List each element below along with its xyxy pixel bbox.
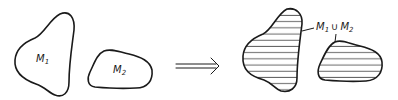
set-m2-left: M2: [88, 50, 152, 88]
set-m1-label: M1: [36, 53, 49, 66]
set-union-diagram: M1 M2 M1∪M2: [0, 0, 398, 100]
set-m2-label: M2: [113, 64, 127, 77]
leader-line-m1: [302, 28, 314, 31]
set-m1-left: M1: [15, 13, 74, 96]
set-m1-hatched: [238, 0, 308, 100]
implies-arrow-icon: [176, 58, 219, 74]
leader-line-m2: [335, 34, 336, 42]
set-m2-hatched: [314, 36, 388, 86]
union-label: M1∪M2: [316, 21, 354, 34]
